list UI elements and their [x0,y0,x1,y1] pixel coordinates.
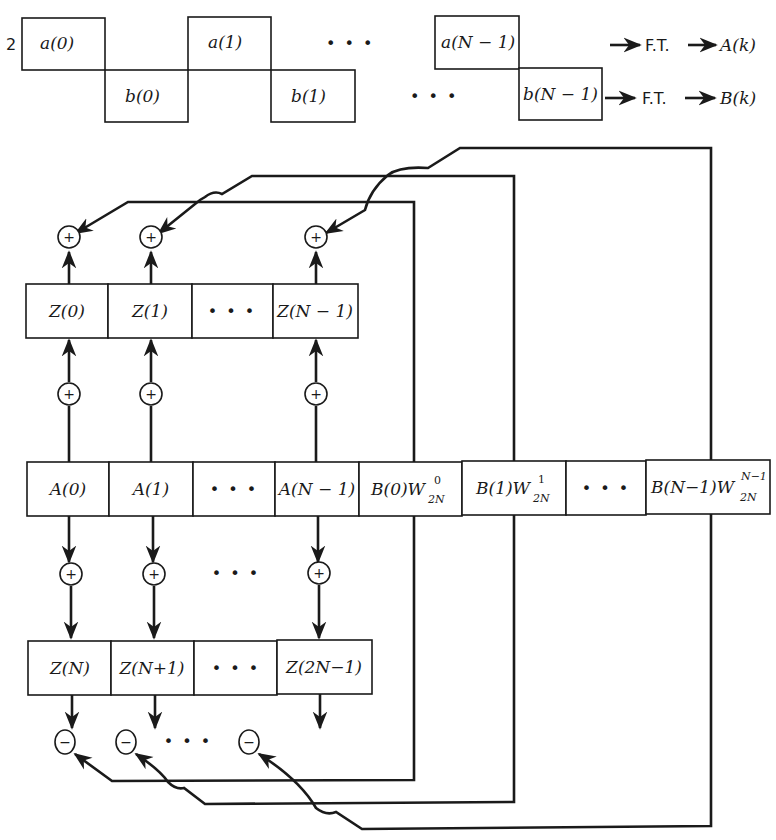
top-plus-nodes: + + + [58,226,327,284]
z-high-row: Z(N) Z(N+1) • • • Z(2N−1) [28,640,372,695]
mid-plus-nodes-upper: + + + [58,340,327,462]
bottom-minus-nodes: − − − • • • [55,694,320,754]
a0-label: a(0) [40,33,74,53]
interleaved-sequence: 2 a(0) a(1) a(N − 1) b(0) b(1) b(N − 1) … [6,16,756,122]
ab-row: A(0) A(1) • • • A(N − 1) B(0)W 0 2N B(1)… [27,460,770,516]
svg-text:B(0)W: B(0)W [370,479,427,499]
bN1-label: b(N − 1) [523,84,598,104]
minus-icon: − [243,734,255,750]
minus-icon: − [120,734,132,750]
b-result-label: B(k) [719,88,756,108]
a-ellipsis: • • • [326,34,374,53]
fft-split-diagram: 2 a(0) a(1) a(N − 1) b(0) b(1) b(N − 1) … [0,0,776,840]
plus-icon: + [313,565,325,581]
mid-plus-nodes-lower: + + + • • • [60,516,330,638]
svg-text:A(0): A(0) [48,479,86,499]
svg-text:Z(N+1): Z(N+1) [118,658,184,678]
svg-text:N−1: N−1 [740,470,767,483]
plus-icon: + [310,386,322,402]
plus-icon: + [63,229,75,245]
svg-text:• • •: • • • [210,480,258,499]
plus-icon: + [65,566,77,582]
b1-label: b(1) [291,86,326,106]
aN1-label: a(N − 1) [441,32,515,52]
svg-text:2N: 2N [739,491,757,504]
svg-text:Z(N): Z(N) [49,658,90,678]
svg-text:B(N−1)W: B(N−1)W [650,477,736,497]
svg-text:• • •: • • • [208,302,256,321]
plus-icon: + [145,229,157,245]
svg-text:• • •: • • • [212,659,260,678]
mid-ellipsis: • • • [212,564,260,583]
svg-text:2N: 2N [532,492,550,505]
svg-text:Z(N − 1): Z(N − 1) [276,301,353,321]
plus-icon: + [145,386,157,402]
plus-icon: + [63,386,75,402]
svg-text:• • •: • • • [582,479,630,498]
svg-text:A(N − 1): A(N − 1) [277,479,355,499]
wire-bN1-to-zN1 [326,148,711,468]
plus-icon: + [310,229,322,245]
svg-text:A(1): A(1) [131,479,169,499]
b-ellipsis: • • • [410,87,458,106]
b0-label: b(0) [125,86,160,106]
a1-label: a(1) [208,32,242,52]
svg-text:Z(1): Z(1) [131,301,168,321]
plus-icon: + [148,566,160,582]
svg-text:Z(2N−1): Z(2N−1) [285,657,362,677]
a-result-label: A(k) [718,35,756,55]
svg-text:2N: 2N [427,493,445,506]
minus-icon: − [59,734,71,750]
a-ft-label: F.T. [645,36,670,55]
bottom-ellipsis: • • • [164,732,212,751]
svg-text:B(1)W: B(1)W [475,478,532,498]
svg-text:1: 1 [538,473,545,486]
b-ft-label: F.T. [642,89,667,108]
svg-text:0: 0 [434,474,441,487]
svg-text:Z(0): Z(0) [48,301,85,321]
scale-factor-label: 2 [6,35,16,54]
z-low-row: Z(0) Z(1) • • • Z(N − 1) [26,284,358,338]
